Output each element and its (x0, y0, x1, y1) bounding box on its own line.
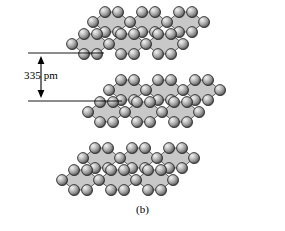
carbon-atom (177, 163, 188, 174)
top-layer (67, 7, 210, 60)
carbon-atom (95, 97, 106, 108)
carbon-atom (203, 75, 214, 86)
carbon-atom (189, 153, 200, 164)
carbon-atom (153, 29, 164, 40)
carbon-atom (166, 75, 177, 86)
carbon-atom (187, 7, 198, 18)
carbon-atom (145, 117, 156, 128)
carbon-atom (137, 7, 148, 18)
carbon-atom (141, 85, 152, 96)
carbon-atom (178, 39, 189, 50)
interlayer-spacing-label: 335 pm (8, 69, 74, 81)
carbon-atom (104, 85, 115, 96)
carbon-atom (215, 85, 226, 96)
carbon-atom (190, 75, 201, 86)
arrow-up-icon (38, 56, 45, 64)
carbon-atom (166, 49, 177, 60)
carbon-atom (156, 185, 167, 196)
carbon-atom (140, 143, 151, 154)
carbon-atom (168, 175, 179, 186)
graphite-structure-figure: 335 pm (b) (0, 0, 285, 231)
carbon-atom (129, 49, 140, 60)
carbon-atom (104, 39, 115, 50)
carbon-atom (178, 85, 189, 96)
carbon-atom (100, 7, 111, 18)
carbon-atom (78, 153, 89, 164)
carbon-atom (116, 29, 127, 40)
carbon-atom (166, 29, 177, 40)
carbon-atom (103, 143, 114, 154)
carbon-atom (106, 165, 117, 176)
carbon-atom (83, 107, 94, 118)
carbon-atom (162, 17, 173, 28)
carbon-atom (116, 49, 127, 60)
carbon-atom (174, 7, 185, 18)
carbon-atom (82, 185, 93, 196)
figure-caption: (b) (0, 203, 285, 215)
carbon-atom (115, 153, 126, 164)
lattice-diagram (0, 0, 285, 231)
carbon-atom (194, 107, 205, 118)
top-layer-atoms (67, 7, 210, 60)
carbon-atom (106, 185, 117, 196)
carbon-atom (94, 175, 105, 186)
bottom-layer-atoms (57, 143, 200, 196)
carbon-atom (150, 7, 161, 18)
carbon-atom (119, 185, 130, 196)
carbon-atom (90, 143, 101, 154)
carbon-atom (153, 49, 164, 60)
carbon-atom (108, 97, 119, 108)
carbon-atom (119, 165, 130, 176)
carbon-atom (67, 39, 78, 50)
carbon-atom (199, 17, 210, 28)
carbon-atom (82, 165, 93, 176)
carbon-atom (182, 97, 193, 108)
carbon-atom (57, 175, 68, 186)
carbon-atom (116, 75, 127, 86)
carbon-atom (113, 7, 124, 18)
carbon-atom (79, 29, 90, 40)
carbon-atom (132, 97, 143, 108)
carbon-atom (143, 165, 154, 176)
carbon-atom (125, 17, 136, 28)
carbon-atom (131, 175, 142, 186)
carbon-atom (69, 185, 80, 196)
carbon-atom (92, 29, 103, 40)
carbon-atom (129, 75, 140, 86)
carbon-atom (169, 97, 180, 108)
arrow-down-icon (38, 90, 45, 98)
carbon-atom (203, 95, 214, 106)
carbon-atom (153, 75, 164, 86)
carbon-atom (187, 27, 198, 38)
carbon-atom (152, 153, 163, 164)
carbon-atom (88, 17, 99, 28)
carbon-atom (169, 117, 180, 128)
carbon-atom (157, 107, 168, 118)
carbon-atom (120, 107, 131, 118)
carbon-atom (69, 165, 80, 176)
carbon-atom (79, 49, 90, 60)
carbon-atom (132, 117, 143, 128)
carbon-atom (156, 165, 167, 176)
carbon-atom (129, 29, 140, 40)
bottom-layer (57, 143, 200, 196)
carbon-atom (141, 39, 152, 50)
carbon-atom (95, 117, 106, 128)
carbon-atom (177, 143, 188, 154)
carbon-atom (145, 97, 156, 108)
carbon-atom (92, 49, 103, 60)
carbon-atom (182, 117, 193, 128)
carbon-atom (127, 143, 138, 154)
carbon-atom (164, 143, 175, 154)
carbon-atom (143, 185, 154, 196)
carbon-atom (108, 117, 119, 128)
